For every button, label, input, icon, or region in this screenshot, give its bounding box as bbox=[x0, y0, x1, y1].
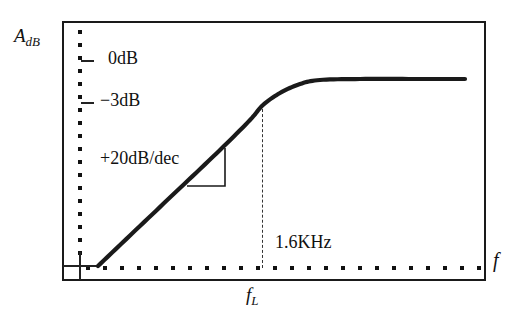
magnitude-response-curve bbox=[98, 79, 465, 266]
response-curve-svg bbox=[0, 0, 527, 320]
slope-triangle-marker bbox=[187, 148, 225, 186]
bode-plot-figure: AdB 0dB −3dB +20dB/dec 1.6KHz fL f bbox=[0, 0, 527, 320]
